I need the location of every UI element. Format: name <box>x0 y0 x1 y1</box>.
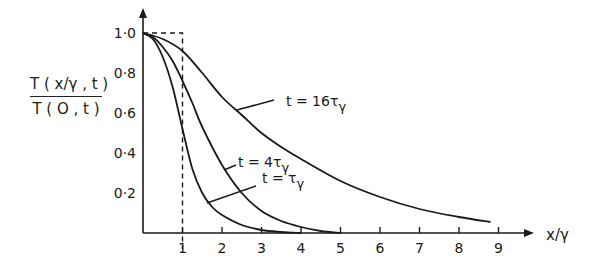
reference-step-line <box>143 33 183 249</box>
x-tick-label: 9 <box>494 240 503 256</box>
x-tick-label: 5 <box>336 240 345 256</box>
annotation-label: t = τγ <box>262 170 305 191</box>
data-curves <box>143 33 491 233</box>
annotation-leader-line <box>237 100 274 110</box>
y-tick-label: 0·8 <box>114 65 136 81</box>
line-chart: 123456789 0·20·40·60·81·0 t = 16τγt = 4τ… <box>0 0 606 265</box>
x-tick-label: 2 <box>218 240 227 256</box>
fraction-bar <box>30 96 102 97</box>
y-tick-label: 0·6 <box>114 105 136 121</box>
x-tick-label: 8 <box>455 240 464 256</box>
y-tick-label: 1·0 <box>114 25 136 41</box>
y-tick-label: 0·4 <box>114 145 136 161</box>
x-axis-label: x/γ <box>546 226 569 244</box>
y-axis-arrow-icon <box>139 8 147 18</box>
axes <box>139 8 534 237</box>
x-tick-label: 7 <box>415 240 424 256</box>
x-ticks: 123456789 <box>178 227 503 256</box>
curve-t-4- <box>143 33 341 233</box>
curve-t- <box>143 33 301 233</box>
annotation-label: t = 16τγ <box>286 93 346 114</box>
annotation-leader-line <box>224 165 236 170</box>
y-ticks: 0·20·40·60·81·0 <box>114 25 136 201</box>
curve-annotations: t = 16τγt = 4τγt = τγ <box>207 93 346 203</box>
curve-t-16- <box>143 33 491 222</box>
x-axis-arrow-icon <box>524 229 534 237</box>
y-axis-label-numerator: T ( x/γ , t ) <box>30 75 102 93</box>
x-tick-label: 4 <box>297 240 306 256</box>
x-tick-label: 6 <box>376 240 385 256</box>
y-axis-label-denominator: T ( O , t ) <box>30 100 102 118</box>
y-axis-label: T ( x/γ , t ) T ( O , t ) <box>30 75 102 118</box>
x-tick-label: 3 <box>257 240 266 256</box>
y-tick-label: 0·2 <box>114 185 136 201</box>
